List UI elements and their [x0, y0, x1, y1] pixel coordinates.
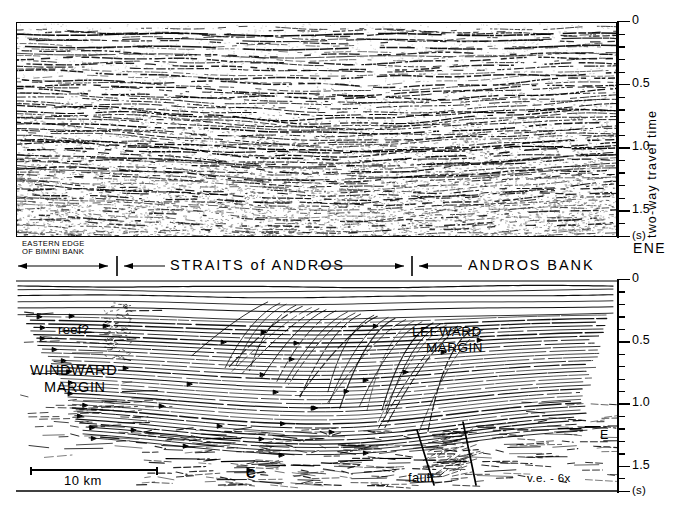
axis-tick-label: 1.5 [632, 459, 650, 471]
axis-tick-minor [617, 109, 625, 110]
scale-bar-cap-left [30, 467, 32, 475]
axis-tick-major [617, 21, 630, 22]
andros-extent-arrow [419, 263, 462, 269]
time-axis-lower [617, 279, 619, 493]
vertical-exaggeration-label: v.e. - 6x [527, 472, 571, 484]
axis-title-two-way-travel-time: two-way travel time [645, 110, 659, 238]
axis-tick-minor [617, 366, 625, 367]
axis-tick-major [617, 84, 630, 85]
horizon-e-label: E [600, 428, 608, 442]
axis-tick-minor [617, 160, 625, 161]
axis-tick-major [617, 491, 630, 492]
axis-unit-label: (s) [632, 484, 646, 496]
leeward-margin-label: LEEWARD MARGIN [412, 324, 483, 356]
axis-tick-minor [617, 72, 625, 73]
axis-tick-major [617, 147, 630, 148]
axis-tick-minor [617, 59, 625, 60]
reef-label: reef? [58, 322, 89, 337]
axis-tick-major [617, 466, 630, 467]
axis-tick-minor [617, 391, 625, 392]
axis-tick-label: 1.0 [632, 396, 650, 408]
time-axis-upper [617, 21, 619, 238]
axis-tick-major [617, 403, 630, 404]
direction-label-ene: ENE [633, 240, 666, 256]
axis-tick-major [617, 236, 630, 237]
axis-tick-major [617, 341, 630, 342]
leeward-margin-line1: LEEWARD [412, 324, 483, 340]
axis-tick-minor [617, 46, 625, 47]
axis-tick-minor [617, 304, 625, 305]
axis-tick-label: 0 [632, 14, 639, 26]
scale-bar: 10 km [30, 467, 158, 487]
axis-tick-minor [617, 379, 625, 380]
horizon-c-label: C [246, 466, 256, 481]
scale-bar-cap-right [156, 467, 158, 475]
windward-margin-line1: WINDWARD [30, 362, 117, 379]
axis-tick-minor [617, 135, 625, 136]
straits-of-andros-label: STRAITS of ANDROS [170, 257, 345, 273]
axis-tick-minor [617, 416, 625, 417]
axis-tick-minor [617, 428, 625, 429]
axis-tick-minor [617, 223, 625, 224]
axis-tick-label: 0.5 [632, 77, 650, 89]
axis-tick-minor [617, 122, 625, 123]
axis-tick-minor [617, 34, 625, 35]
axis-tick-minor [617, 291, 625, 292]
bimini-extent-arrow [18, 263, 108, 269]
axis-tick-major [617, 279, 630, 280]
axis-tick-minor [617, 198, 625, 199]
axis-tick-label: 0.5 [632, 334, 650, 346]
scale-bar-label: 10 km [64, 473, 102, 488]
axis-tick-minor [617, 478, 625, 479]
axis-tick-minor [617, 453, 625, 454]
axis-tick-minor [617, 316, 625, 317]
seismic-profile-figure: EASTERN EDGE OF BIMINI BANK STRAITS of A… [0, 0, 680, 509]
axis-tick-minor [617, 441, 625, 442]
axis-tick-label: 0 [632, 272, 639, 284]
axis-tick-minor [617, 97, 625, 98]
province-bar: EASTERN EDGE OF BIMINI BANK STRAITS of A… [0, 238, 680, 280]
windward-margin-line2: MARGIN [30, 379, 117, 396]
windward-margin-label: WINDWARD MARGIN [30, 362, 117, 396]
axis-tick-minor [617, 329, 625, 330]
bimini-label-line2: OF BIMINI BANK [22, 248, 84, 257]
andros-bank-label: ANDROS BANK [468, 257, 594, 273]
fault-label: fault [408, 470, 434, 485]
axis-unit-label: (s) [632, 229, 646, 241]
scale-bar-line [30, 469, 158, 471]
axis-tick-minor [617, 354, 625, 355]
seismic-data-section [16, 22, 617, 237]
seismic-wiggle-traces [16, 22, 617, 237]
leeward-margin-line2: MARGIN [412, 340, 483, 356]
axis-tick-minor [617, 185, 625, 186]
axis-tick-minor [617, 172, 625, 173]
axis-tick-major [617, 210, 630, 211]
